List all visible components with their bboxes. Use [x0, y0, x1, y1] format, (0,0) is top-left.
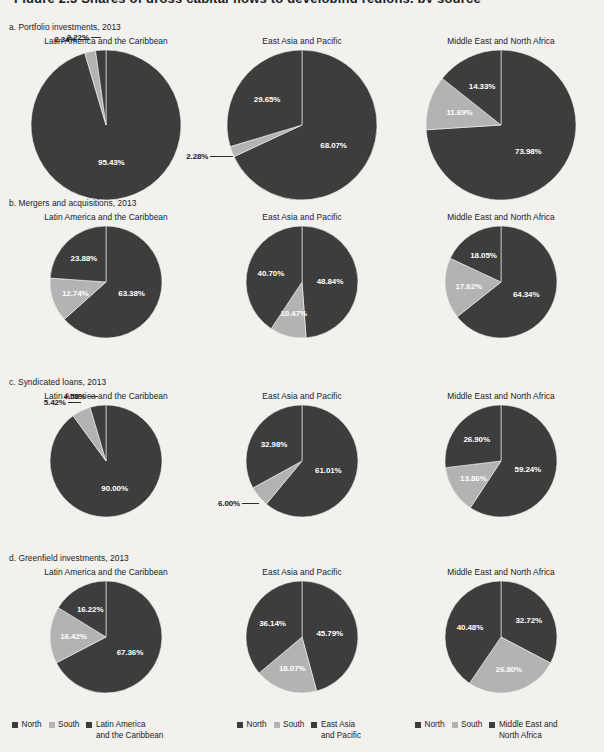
- pie-container: 90.00%5.42%4.58%: [0, 403, 212, 519]
- slice-label: 36.14%: [259, 619, 286, 628]
- pie-container: 68.07%2.28%29.65%: [200, 48, 404, 202]
- slice-label: 18.07%: [279, 663, 306, 672]
- column-title-2: Middle East and North Africa: [398, 212, 604, 222]
- column-title-1: East Asia and Pacific: [200, 212, 404, 222]
- slice-label: 67.36%: [117, 647, 144, 656]
- column-title-2: Middle East and North Africa: [398, 567, 604, 577]
- slice-label: 64.34%: [513, 290, 540, 299]
- slice-label: 23.88%: [71, 254, 98, 263]
- pie-chart: [48, 403, 164, 519]
- figure-title: Figure 2.3 Shares of gross capital flows…: [14, 0, 481, 3]
- figure-root: Figure 2.3 Shares of gross capital flows…: [0, 0, 604, 752]
- panel-label: c. Syndicated loans, 2013: [9, 377, 106, 387]
- panel-label: d. Greenfield investments, 2013: [9, 553, 129, 563]
- pie-container: 32.72%26.80%40.48%: [398, 579, 604, 695]
- slice-label: 16.42%: [60, 631, 87, 640]
- label-leader-line: [242, 503, 259, 504]
- pie-chart: [29, 48, 183, 202]
- legend-item-south: South: [274, 720, 305, 731]
- panel-label: b. Mergers and acquisitions, 2013: [9, 198, 136, 208]
- slice-label: 90.00%: [101, 483, 128, 492]
- slice-label: 32.72%: [516, 616, 543, 625]
- label-leader-line: [91, 37, 101, 38]
- legend-label: North: [425, 720, 445, 731]
- legend-swatch-icon: [86, 722, 92, 728]
- label-leader-line: [88, 396, 99, 397]
- legend-group-middle-east: NorthSouthMiddle East and North Africa: [415, 720, 558, 741]
- slice-label: 59.24%: [515, 465, 542, 474]
- pie-chart: [225, 48, 379, 202]
- slice-label: 48.84%: [317, 276, 344, 285]
- legend-swatch-icon: [452, 722, 458, 728]
- pie-container: 63.38%12.74%23.88%: [0, 224, 212, 340]
- slice-label: 45.79%: [316, 629, 343, 638]
- legend-label: South: [58, 720, 79, 731]
- slice-label: 2.28%: [186, 152, 208, 161]
- pie-chart: [244, 403, 360, 519]
- pie-container: 95.43%2.34%2.22%: [0, 48, 212, 202]
- legend-swatch-icon: [49, 722, 55, 728]
- pie-chart: [443, 403, 559, 519]
- legend-item-north: North: [12, 720, 42, 731]
- legend-swatch-icon: [237, 722, 243, 728]
- slice-label: 40.70%: [258, 268, 285, 277]
- slice-label: 29.65%: [254, 95, 281, 104]
- legend-swatch-icon: [489, 722, 495, 728]
- slice-label: 73.98%: [515, 146, 542, 155]
- slice-label: 4.58%: [63, 391, 85, 400]
- pie-chart: [424, 48, 578, 202]
- pie-container: 48.84%10.47%40.70%: [200, 224, 404, 340]
- slice-label: 32.98%: [261, 440, 288, 449]
- pie-container: 59.24%13.86%26.90%: [398, 403, 604, 519]
- legend-group-latin-america: NorthSouthLatin America and the Caribbea…: [12, 720, 163, 741]
- legend-item-south: South: [452, 720, 483, 731]
- slice-label: 26.90%: [463, 435, 490, 444]
- pie-chart: [48, 224, 164, 340]
- column-title-0: Latin America and the Caribbean: [0, 567, 212, 577]
- legend-item-north: North: [415, 720, 445, 731]
- legend-label: Latin America and the Caribbean: [96, 720, 163, 741]
- legend-swatch-icon: [274, 722, 280, 728]
- label-leader-line: [210, 156, 232, 157]
- slice-label: 95.43%: [98, 158, 125, 167]
- slice-label: 16.22%: [77, 604, 104, 613]
- legend-label: Middle East and North Africa: [499, 720, 558, 741]
- pie-container: 45.79%18.07%36.14%: [200, 579, 404, 695]
- legend-label: North: [22, 720, 42, 731]
- column-title-0: Latin America and the Caribbean: [0, 212, 212, 222]
- legend-swatch-icon: [12, 722, 18, 728]
- slice-label: 17.62%: [455, 281, 482, 290]
- slice-label: 10.47%: [281, 309, 308, 318]
- slice-label: 11.69%: [446, 108, 472, 117]
- legend-swatch-icon: [415, 722, 421, 728]
- pie-chart: [443, 579, 559, 695]
- pie-container: 61.01%6.00%32.98%: [200, 403, 404, 519]
- legend-label: South: [461, 720, 482, 731]
- slice-label: 2.22%: [67, 32, 89, 41]
- column-title-0: Latin America and the Caribbean: [0, 36, 212, 46]
- legend-item-east-asia: East Asia and Pacific: [311, 720, 361, 741]
- slice-label: 6.00%: [218, 499, 240, 508]
- legend-label: South: [283, 720, 304, 731]
- column-title-1: East Asia and Pacific: [200, 391, 404, 401]
- legend-item-south: South: [49, 720, 80, 731]
- column-title-1: East Asia and Pacific: [200, 567, 404, 577]
- panel-label: a. Portfolio investments, 2013: [9, 22, 121, 32]
- column-title-1: East Asia and Pacific: [200, 36, 404, 46]
- slice-label: 26.80%: [496, 664, 523, 673]
- pie-container: 67.36%16.42%16.22%: [0, 579, 212, 695]
- legend-group-east-asia: NorthSouthEast Asia and Pacific: [237, 720, 361, 741]
- column-title-0: Latin America and the Caribbean: [0, 391, 212, 401]
- slice-label: 40.48%: [457, 623, 484, 632]
- column-title-2: Middle East and North Africa: [398, 391, 604, 401]
- slice-label: 61.01%: [315, 466, 342, 475]
- pie-container: 73.98%11.69%14.33%: [398, 48, 604, 202]
- slice-label: 13.86%: [460, 474, 487, 483]
- legend-item-latin-america: Latin America and the Caribbean: [86, 720, 163, 741]
- legend-item-middle-east-and: Middle East and North Africa: [489, 720, 557, 741]
- legend-label: North: [247, 720, 267, 731]
- legend-row: NorthSouthLatin America and the Caribbea…: [0, 716, 604, 752]
- legend-swatch-icon: [311, 722, 317, 728]
- legend-item-north: North: [237, 720, 267, 731]
- pie-container: 64.34%17.62%18.05%: [398, 224, 604, 340]
